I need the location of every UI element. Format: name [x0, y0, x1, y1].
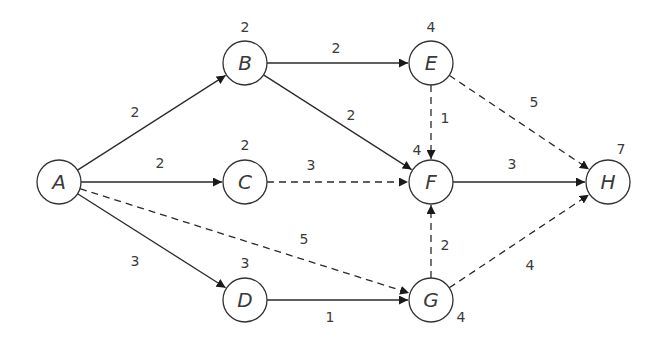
edge-weight-g-f: 2 — [441, 237, 450, 253]
edge-weight-e-h: 5 — [530, 94, 539, 110]
node-g: G4 — [409, 278, 466, 325]
edge-e-h — [449, 75, 589, 169]
edge-weight-e-f: 1 — [441, 110, 450, 126]
node-earliest-time: 3 — [241, 255, 250, 271]
node-e: E4 — [409, 19, 453, 85]
node-a: A — [37, 160, 81, 204]
activity-network-diagram: 2235223115324 AB2C2D3E4F4G4H7 — [0, 0, 662, 343]
node-earliest-time: 4 — [457, 309, 466, 325]
edge-a-b — [78, 75, 226, 170]
nodes-layer: AB2C2D3E4F4G4H7 — [37, 19, 630, 325]
node-label: F — [425, 170, 437, 194]
edge-a-d — [78, 194, 226, 288]
edge-weight-d-g: 1 — [326, 309, 335, 325]
node-label: C — [238, 170, 252, 194]
node-b: B2 — [223, 19, 267, 85]
edge-weight-b-f: 2 — [347, 107, 356, 123]
node-label: H — [600, 170, 615, 194]
node-label: B — [238, 51, 252, 75]
edges-layer: 2235223115324 — [78, 40, 589, 325]
node-h: H7 — [586, 141, 630, 204]
edge-weight-a-g: 5 — [300, 231, 309, 247]
node-earliest-time: 4 — [427, 19, 436, 35]
node-label: A — [50, 170, 66, 194]
node-earliest-time: 7 — [617, 141, 626, 157]
edge-weight-c-f: 3 — [307, 157, 316, 173]
edge-weight-a-b: 2 — [131, 104, 140, 120]
node-c: C2 — [223, 137, 267, 204]
edge-weight-g-h: 4 — [526, 257, 535, 273]
edge-weight-a-d: 3 — [131, 253, 140, 269]
edge-weight-a-c: 2 — [156, 155, 165, 171]
node-earliest-time: 2 — [241, 19, 250, 35]
edge-weight-b-e: 2 — [332, 40, 341, 56]
node-label: E — [425, 51, 438, 75]
node-earliest-time: 2 — [241, 137, 250, 153]
edge-b-f — [264, 75, 412, 170]
node-earliest-time: 4 — [413, 142, 422, 158]
edge-g-h — [449, 195, 589, 288]
diagram-canvas: 2235223115324 AB2C2D3E4F4G4H7 — [0, 0, 662, 343]
node-d: D3 — [223, 255, 267, 322]
node-label: G — [423, 288, 439, 312]
node-label: D — [237, 288, 252, 312]
edge-weight-f-h: 3 — [508, 156, 517, 172]
